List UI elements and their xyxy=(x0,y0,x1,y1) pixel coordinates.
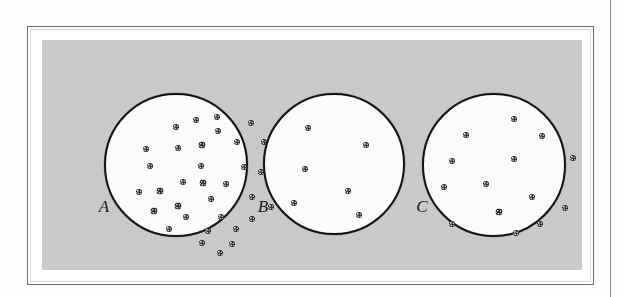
colony-dot xyxy=(157,188,164,195)
colony-dot xyxy=(175,203,182,210)
colony-dot xyxy=(193,117,199,123)
colony-dot xyxy=(511,116,517,122)
dish-label-b: B xyxy=(243,198,283,215)
petri-dish-c xyxy=(422,93,566,237)
colony-dot xyxy=(441,184,447,190)
colony-dot xyxy=(496,209,503,216)
colony-dot xyxy=(175,145,181,151)
colony-dot xyxy=(233,226,239,232)
page-margin-rule xyxy=(610,0,611,297)
colony-dot xyxy=(199,142,206,149)
dish-circle-b xyxy=(263,93,405,235)
colony-dot xyxy=(200,180,207,187)
colony-dot xyxy=(234,139,240,145)
colony-dot xyxy=(449,158,455,164)
colony-dot xyxy=(483,181,489,187)
colony-dot xyxy=(449,221,455,227)
colony-dot xyxy=(151,208,158,215)
colony-dot xyxy=(529,194,535,200)
colony-dot xyxy=(214,114,220,120)
colony-dot xyxy=(229,241,235,247)
colony-dot xyxy=(166,226,172,232)
colony-dot xyxy=(345,188,351,194)
colony-dot xyxy=(147,163,153,169)
colony-dot xyxy=(248,120,254,126)
plate-panel: ABC xyxy=(42,40,582,270)
dish-circle-c xyxy=(422,93,566,237)
petri-dish-b xyxy=(263,93,405,235)
colony-dot xyxy=(218,214,224,220)
figure-frame: ABC xyxy=(27,26,594,285)
dish-label-a: A xyxy=(84,198,124,215)
colony-dot xyxy=(136,189,142,195)
colony-dot xyxy=(241,164,247,170)
dish-circle-a xyxy=(104,93,248,237)
figure-root: ABC xyxy=(0,0,624,297)
colony-dot xyxy=(180,179,186,185)
colony-dot xyxy=(537,221,543,227)
colony-dot xyxy=(363,142,369,148)
colony-dot xyxy=(183,214,189,220)
colony-dot xyxy=(356,212,362,218)
colony-dot xyxy=(305,125,311,131)
colony-dot xyxy=(539,133,545,139)
dish-label-c: C xyxy=(402,198,442,215)
colony-dot xyxy=(223,181,229,187)
colony-dot xyxy=(199,240,205,246)
colony-dot xyxy=(143,146,149,152)
colony-dot xyxy=(215,128,221,134)
colony-dot xyxy=(570,155,576,161)
colony-dot xyxy=(208,196,214,202)
colony-dot xyxy=(173,124,179,130)
colony-dot xyxy=(513,230,519,236)
petri-dish-row: ABC xyxy=(42,40,582,270)
petri-dish-a xyxy=(104,93,248,237)
colony-dot xyxy=(217,250,223,256)
colony-dot xyxy=(302,166,308,172)
colony-dot xyxy=(463,132,469,138)
colony-dot xyxy=(249,216,255,222)
colony-dot xyxy=(562,205,568,211)
colony-dot xyxy=(198,163,204,169)
colony-dot xyxy=(205,228,211,234)
colony-dot xyxy=(291,200,297,206)
colony-dot xyxy=(511,156,517,162)
